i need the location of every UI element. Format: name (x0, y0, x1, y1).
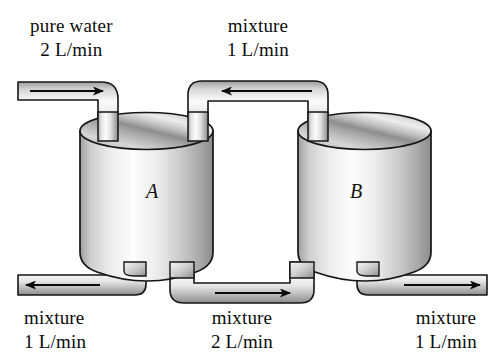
label-top-left-line1: pure water (30, 14, 113, 38)
tank-b-label: B (350, 180, 362, 203)
label-bottom-right-line2: 1 L/min (415, 330, 477, 354)
label-bottom-left-line2: 1 L/min (24, 330, 86, 354)
label-bottom-right-line1: mixture (415, 306, 477, 330)
label-top-left: pure water 2 L/min (30, 14, 113, 63)
label-top-middle-line1: mixture (227, 14, 289, 38)
label-bottom-left-line1: mixture (24, 306, 86, 330)
tank-a-label: A (146, 180, 158, 203)
label-top-middle: mixture 1 L/min (227, 14, 289, 63)
label-bottom-middle-line1: mixture (211, 306, 273, 330)
label-bottom-middle-line2: 2 L/min (211, 330, 273, 354)
label-top-middle-line2: 1 L/min (227, 38, 289, 62)
two-tank-mixing-diagram: pure water 2 L/min mixture 1 L/min mixtu… (0, 0, 502, 361)
label-bottom-right: mixture 1 L/min (415, 306, 477, 355)
label-bottom-middle: mixture 2 L/min (211, 306, 273, 355)
tank-b-top-pipe-stub (308, 112, 328, 141)
label-top-left-line2: 2 L/min (30, 38, 113, 62)
label-bottom-left: mixture 1 L/min (24, 306, 86, 355)
